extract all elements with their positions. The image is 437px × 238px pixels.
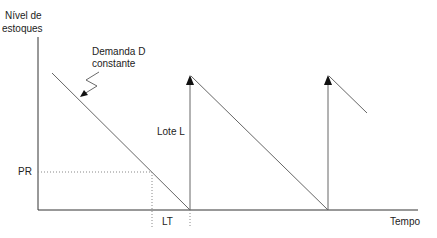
inventory-sawtooth-diagram [0, 0, 437, 238]
arrowhead-2 [324, 75, 332, 85]
x-axis-label: Tempo [390, 216, 420, 228]
demand-pointer-arrowhead [80, 90, 88, 97]
lot-label: Lote L [157, 126, 185, 138]
demand-line-3 [329, 76, 367, 113]
y-axis-label-line1: Nível de [5, 10, 42, 22]
demand-label-line2: constante [92, 58, 135, 70]
arrowhead-1 [186, 75, 194, 85]
demand-line-2 [191, 76, 328, 210]
lead-time-label: LT [162, 216, 173, 228]
demand-pointer-zigzag [84, 72, 99, 94]
demand-line-1 [52, 73, 190, 210]
y-axis-label-line2: estoques [2, 23, 43, 35]
reorder-point-label: PR [18, 166, 32, 178]
demand-label-line1: Demanda D [92, 46, 145, 58]
